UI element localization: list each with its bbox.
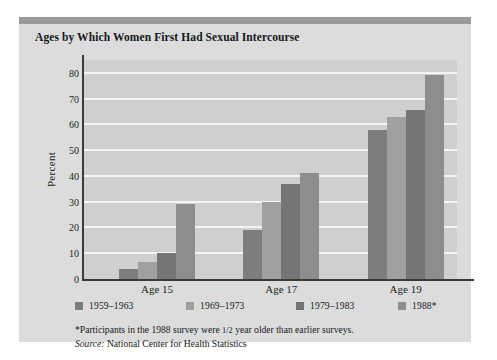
legend-label: 1969–1973 bbox=[200, 301, 245, 311]
bar-group bbox=[119, 60, 195, 279]
source-text: National Center for Health Statistics bbox=[104, 338, 246, 349]
bars-layer bbox=[84, 60, 457, 279]
bar[interactable] bbox=[368, 130, 387, 279]
legend-swatch-icon bbox=[75, 302, 83, 310]
footnotes: *Participants in the 1988 survey were 1/… bbox=[75, 323, 465, 350]
bar[interactable] bbox=[300, 173, 319, 279]
legend-item[interactable]: 1979–1983 bbox=[296, 301, 355, 311]
bar[interactable] bbox=[425, 75, 444, 279]
plot-wrapper: 01020304050607080 Age 15Age 17Age 19 bbox=[84, 60, 457, 279]
legend-swatch-icon bbox=[398, 302, 406, 310]
legend-label: 1959–1963 bbox=[89, 301, 134, 311]
source-label: Source: bbox=[75, 338, 104, 349]
y-tick-label: 0 bbox=[74, 274, 79, 285]
y-tick-label: 10 bbox=[69, 248, 79, 259]
bar[interactable] bbox=[387, 117, 406, 279]
legend-swatch-icon bbox=[296, 302, 304, 310]
chart-title: Ages by Which Women First Had Sexual Int… bbox=[35, 31, 300, 43]
page-root: Ages by Which Women First Had Sexual Int… bbox=[0, 0, 497, 360]
bar[interactable] bbox=[243, 230, 262, 279]
legend-label: 1979–1983 bbox=[310, 301, 355, 311]
bar[interactable] bbox=[138, 262, 157, 279]
legend-swatch-icon bbox=[186, 302, 194, 310]
y-axis-line bbox=[82, 55, 84, 279]
x-axis-line bbox=[82, 279, 474, 281]
x-tick-label: Age 15 bbox=[117, 283, 197, 295]
bar-group bbox=[368, 60, 444, 279]
plot-area bbox=[84, 60, 457, 279]
legend-label: 1988* bbox=[412, 301, 437, 311]
x-tick-label: Age 19 bbox=[366, 283, 446, 295]
chart-panel: Ages by Which Women First Had Sexual Int… bbox=[19, 17, 471, 342]
bar[interactable] bbox=[406, 110, 425, 279]
footnote-text-before: *Participants in the 1988 survey were bbox=[75, 324, 222, 335]
footnote-asterisk: *Participants in the 1988 survey were 1/… bbox=[75, 323, 465, 337]
y-tick-label: 20 bbox=[69, 222, 79, 233]
legend-item[interactable]: 1969–1973 bbox=[186, 301, 245, 311]
footnote-fraction: 1/2 bbox=[222, 326, 233, 335]
bar[interactable] bbox=[262, 202, 281, 279]
legend-item[interactable]: 1988* bbox=[398, 301, 437, 311]
bar[interactable] bbox=[176, 204, 195, 279]
panel-top-rule bbox=[19, 17, 471, 24]
bar-group bbox=[243, 60, 319, 279]
x-tick-label: Age 17 bbox=[241, 283, 321, 295]
y-tick-label: 30 bbox=[69, 196, 79, 207]
y-tick-label: 40 bbox=[69, 170, 79, 181]
footnote-source: Source: National Center for Health Stati… bbox=[75, 337, 465, 350]
bar[interactable] bbox=[281, 184, 300, 279]
y-tick-label: 60 bbox=[69, 119, 79, 130]
footnote-text-after: year older than earlier surveys. bbox=[233, 324, 354, 335]
y-axis-label: Percent bbox=[45, 60, 59, 279]
y-tick-label: 80 bbox=[69, 67, 79, 78]
y-tick-label: 50 bbox=[69, 145, 79, 156]
bar[interactable] bbox=[157, 253, 176, 279]
chart-legend: 1959–19631969–19731979–19831988* bbox=[75, 301, 475, 315]
bar[interactable] bbox=[119, 269, 138, 279]
y-tick-label: 70 bbox=[69, 93, 79, 104]
legend-item[interactable]: 1959–1963 bbox=[75, 301, 134, 311]
